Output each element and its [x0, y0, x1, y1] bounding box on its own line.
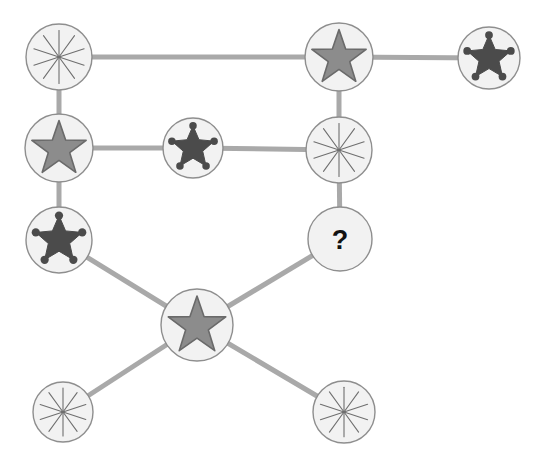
node-star-top-center[interactable] [305, 23, 373, 91]
node-badge-middle-center[interactable] [163, 118, 223, 178]
graph-diagram: ? [0, 0, 540, 475]
node-starburst-middle-right[interactable] [306, 117, 372, 183]
node-badge-top-right[interactable] [458, 27, 520, 89]
question-mark-label: ? [332, 225, 349, 255]
edge-layer [59, 57, 489, 412]
node-starburst-bottom-right[interactable] [313, 381, 375, 443]
node-starburst-top-left[interactable] [26, 24, 92, 90]
puzzle-canvas: ? [0, 0, 540, 475]
node-badge-lower-left[interactable] [26, 207, 92, 273]
node-layer: ? [25, 23, 520, 443]
node-star-center-hub[interactable] [161, 289, 233, 361]
node-star-middle-left[interactable] [25, 114, 93, 182]
node-starburst-bottom-left[interactable] [33, 382, 93, 442]
node-question-unknown[interactable]: ? [308, 207, 372, 271]
